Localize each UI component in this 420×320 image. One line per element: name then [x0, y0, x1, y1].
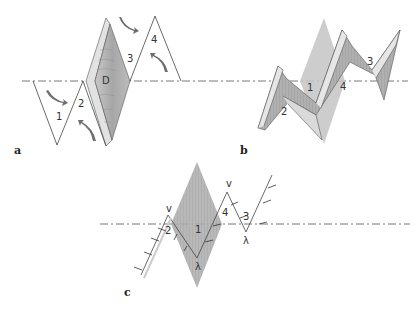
segment-label-2: 2	[281, 106, 287, 117]
figure-canvas: 1 2 3 4 D a 1 2 3 4 b 2	[0, 0, 420, 320]
panel-label-c: c	[124, 286, 131, 299]
curved-arrow-icon	[150, 53, 168, 72]
panel-a: 1 2 3 4 D a	[14, 16, 210, 157]
fold-mark-valley: v	[226, 178, 232, 189]
diamond-shade-b	[300, 18, 345, 144]
curved-arrow-icon	[119, 17, 139, 34]
segment-label-3: 3	[243, 211, 249, 222]
segment-label-2: 2	[165, 225, 171, 236]
curved-arrow-icon	[78, 120, 96, 141]
panel-c: 2 1 3 4 v v λ λ c	[100, 162, 410, 299]
triangle-4	[130, 16, 181, 81]
curved-arrow-icon	[46, 90, 68, 106]
center-label-d: D	[102, 75, 110, 86]
segment-label-1: 1	[56, 111, 62, 122]
panel-b: 1 2 3 4 b	[210, 18, 408, 157]
fold-mark-mountain: λ	[195, 261, 201, 272]
segment-label-1: 1	[195, 224, 201, 235]
segment-label-2: 2	[78, 98, 84, 109]
panel-label-a: a	[14, 144, 21, 157]
segment-label-3: 3	[367, 56, 373, 67]
segment-label-4: 4	[222, 207, 228, 218]
segment-label-1: 1	[307, 82, 313, 93]
fold-mark-mountain: λ	[243, 235, 249, 246]
segment-label-3: 3	[127, 53, 133, 64]
fold-mark-valley: v	[166, 203, 172, 214]
segment-label-4: 4	[151, 34, 157, 45]
panel-label-b: b	[240, 144, 248, 157]
segment-label-4: 4	[340, 81, 346, 92]
